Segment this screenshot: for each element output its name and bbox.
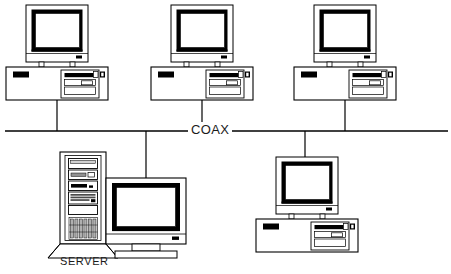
node-workstation-3[interactable] bbox=[294, 5, 396, 100]
network-diagram-canvas: COAX SERVER bbox=[0, 0, 451, 274]
node-workstation-1[interactable] bbox=[6, 5, 108, 100]
node-server[interactable] bbox=[48, 152, 186, 258]
server-node-label: SERVER bbox=[60, 255, 109, 268]
coax-bus-label: COAX bbox=[188, 122, 232, 138]
node-workstation-2[interactable] bbox=[151, 5, 253, 100]
node-workstation-4[interactable] bbox=[256, 157, 358, 252]
